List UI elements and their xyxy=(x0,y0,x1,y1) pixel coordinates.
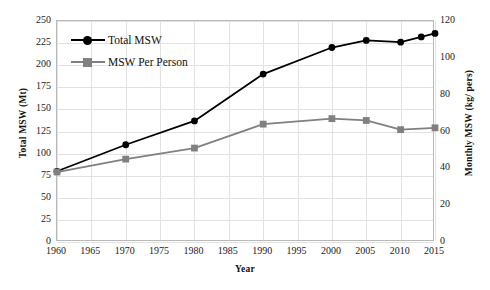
legend-item-msw-per-person: MSW Per Person xyxy=(71,51,188,73)
axis-tick-label: 2015 xyxy=(414,245,454,256)
data-point-marker xyxy=(397,126,404,133)
data-point-marker xyxy=(432,30,439,37)
axis-tick-label: 60 xyxy=(440,125,480,136)
axis-tick-label: 125 xyxy=(11,125,51,136)
data-point-marker xyxy=(363,117,370,124)
legend-marker-circle-icon xyxy=(71,34,105,46)
axis-tick-label: 150 xyxy=(11,102,51,113)
legend-label-total-msw: Total MSW xyxy=(108,34,162,46)
series-line-msw-per-person xyxy=(57,119,435,172)
data-point-marker xyxy=(260,71,267,78)
data-point-marker xyxy=(191,145,198,152)
axis-tick-label: 75 xyxy=(11,169,51,180)
gridline-horizontal xyxy=(57,242,433,243)
plot-area: Total MSW MSW Per Person xyxy=(56,20,434,241)
data-point-marker xyxy=(432,124,439,131)
axis-tick-label: 200 xyxy=(11,58,51,69)
data-point-marker xyxy=(191,117,198,124)
axis-tick-label: 100 xyxy=(440,51,480,62)
axis-tick-label: 225 xyxy=(11,36,51,47)
legend-label-msw-per-person: MSW Per Person xyxy=(108,56,188,68)
axis-tick-label: 40 xyxy=(440,161,480,172)
axis-tick-label: 175 xyxy=(11,80,51,91)
data-point-marker xyxy=(122,156,129,163)
axis-tick-label: 20 xyxy=(440,198,480,209)
axis-tick-label: 50 xyxy=(11,191,51,202)
x-axis-title: Year xyxy=(0,264,490,274)
legend-marker-square-icon xyxy=(71,56,105,68)
axis-tick-label: 100 xyxy=(11,147,51,158)
chart-figure: Total MSW (Mt) Monthly MSW (kg/ pers) Ye… xyxy=(0,0,490,290)
axis-tick-label: 25 xyxy=(11,213,51,224)
axis-tick-label: 250 xyxy=(11,14,51,25)
axis-tick-label: 120 xyxy=(440,14,480,25)
data-point-marker xyxy=(122,141,129,148)
data-point-marker xyxy=(54,169,61,176)
legend-item-total-msw: Total MSW xyxy=(71,29,188,51)
data-point-marker xyxy=(260,121,267,128)
data-point-marker xyxy=(363,37,370,44)
chart-legend: Total MSW MSW Per Person xyxy=(71,29,188,73)
data-point-marker xyxy=(418,34,425,41)
data-point-marker xyxy=(329,44,336,51)
axis-tick-label: 80 xyxy=(440,88,480,99)
data-point-marker xyxy=(329,115,336,122)
data-point-marker xyxy=(397,39,404,46)
